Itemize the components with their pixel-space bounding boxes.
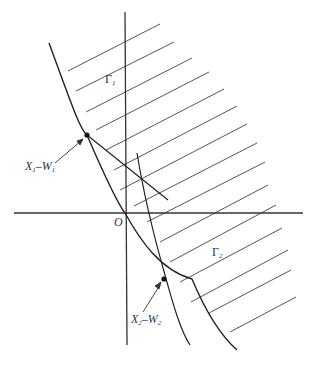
tangent-line-1 [87,135,168,200]
point-x2-w2 [161,276,166,281]
arrows [55,139,161,312]
point-x1-w1-label: X1–W1 [25,160,55,174]
hatch-lines [68,24,296,332]
boundary-curve [49,43,237,350]
point-x2-w2-label: X2–W2 [131,313,161,327]
point-x1-w1 [84,132,89,137]
y-axis [125,12,127,345]
origin-label: O [114,216,123,228]
region-gamma1-label: Γ1 [105,73,115,87]
axes [14,12,303,345]
region-gamma2-label: Γ2 [212,246,222,260]
